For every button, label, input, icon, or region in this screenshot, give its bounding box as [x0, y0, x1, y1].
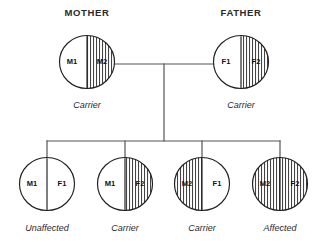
child-2-symbol[interactable]: M1 F2: [98, 158, 153, 211]
individual-child-2[interactable]: M1 F2 Carrier: [98, 158, 153, 234]
father-header-label: FATHER: [221, 7, 262, 18]
child-4-right-allele-label: F2: [291, 179, 300, 188]
child-4-status-label: Affected: [262, 223, 297, 233]
individual-child-1[interactable]: M1 F1 Unaffected: [20, 158, 75, 234]
father-status-label: Carrier: [227, 100, 256, 110]
father-right-allele-label: F2: [252, 57, 261, 66]
pedigree-diagram: MOTHER M1 M2 Carrier FATHER F1 F2: [0, 0, 327, 251]
mother-header-label: MOTHER: [65, 7, 110, 18]
father-left-allele-label: F1: [222, 57, 231, 66]
child-1-status-label: Unaffected: [25, 223, 70, 233]
pedigree-canvas: MOTHER M1 M2 Carrier FATHER F1 F2: [0, 0, 327, 251]
child-3-status-label: Carrier: [188, 223, 217, 233]
child-3-right-allele-label: F1: [213, 179, 222, 188]
child-4-symbol[interactable]: M2 F2: [253, 158, 308, 211]
mother-status-label: Carrier: [73, 100, 102, 110]
child-2-status-label: Carrier: [111, 223, 140, 233]
child-1-right-allele-label: F1: [58, 179, 67, 188]
child-2-right-allele-label: F2: [136, 179, 145, 188]
child-2-left-allele-label: M1: [105, 179, 115, 188]
mother-left-allele-label: M1: [67, 57, 77, 66]
child-3-left-allele-label: M2: [182, 179, 192, 188]
individual-father[interactable]: FATHER F1 F2 Carrier: [214, 7, 269, 110]
individual-mother[interactable]: MOTHER M1 M2 Carrier: [60, 7, 115, 110]
child-3-symbol[interactable]: M2 F1: [175, 158, 230, 211]
child-1-symbol[interactable]: M1 F1: [20, 158, 75, 211]
individual-child-4[interactable]: M2 F2 Affected: [253, 158, 308, 234]
individual-child-3[interactable]: M2 F1 Carrier: [175, 158, 230, 234]
child-4-left-allele-label: M2: [260, 179, 270, 188]
father-symbol[interactable]: F1 F2: [214, 36, 269, 89]
mother-symbol[interactable]: M1 M2: [60, 36, 115, 89]
child-1-left-allele-label: M1: [27, 179, 37, 188]
mother-right-allele-label: M2: [97, 57, 107, 66]
